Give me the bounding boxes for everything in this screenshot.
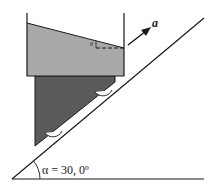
incline-angle-label: α = 30, 0º	[42, 163, 89, 177]
arrow-head-icon	[141, 27, 151, 36]
surface-angle-label: θ	[90, 41, 93, 47]
acceleration-arrow	[128, 31, 146, 45]
incline-angle-arc	[34, 161, 41, 179]
liquid	[27, 23, 124, 76]
physics-diagram: θ a α = 30, 0º	[0, 0, 216, 192]
acceleration-label: a	[152, 16, 158, 30]
